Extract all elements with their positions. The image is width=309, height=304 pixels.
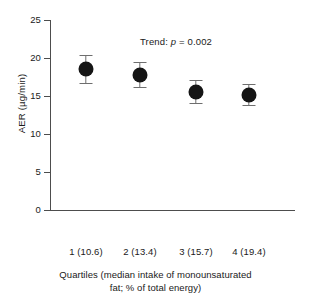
y-tick-label-0: 0 <box>1 205 41 215</box>
trend-annotation: Trend: p = 0.002 <box>140 36 212 47</box>
y-tick-label-25: 25 <box>1 15 41 25</box>
x-axis-title-line-1: Quartiles (median intake of monounsatura… <box>18 269 293 282</box>
errorbar-cap-top-2 <box>134 62 147 63</box>
x-axis-title-line-2: fat; % of total energy) <box>18 282 293 295</box>
errorbar-cap-bottom-3 <box>190 103 203 104</box>
y-tick-5 <box>44 172 50 173</box>
x-axis-line <box>50 210 295 211</box>
errorbar-cap-bottom-1 <box>80 83 93 84</box>
y-tick-20 <box>44 58 50 59</box>
trend-value: = 0.002 <box>176 36 212 47</box>
data-point-2 <box>133 68 148 83</box>
y-tick-15 <box>44 96 50 97</box>
y-tick-10 <box>44 134 50 135</box>
data-point-3 <box>189 85 204 100</box>
errorbar-cap-bottom-4 <box>243 105 256 106</box>
errorbar-cap-top-4 <box>243 84 256 85</box>
errorbar-cap-top-1 <box>80 55 93 56</box>
chart-figure: 25 20 15 10 5 0 AER (µg/min) Trend: p = … <box>0 0 309 304</box>
y-tick-0 <box>44 210 50 211</box>
errorbar-cap-bottom-2 <box>134 87 147 88</box>
trend-prefix: Trend: <box>140 36 171 47</box>
errorbar-cap-top-3 <box>190 80 203 81</box>
y-tick-25 <box>44 20 50 21</box>
y-axis-title: AER (µg/min) <box>16 39 27 169</box>
x-axis-title: Quartiles (median intake of monounsatura… <box>18 269 293 294</box>
x-tick-label-4: 4 (19.4) <box>214 246 284 257</box>
y-axis-line <box>50 20 51 211</box>
data-point-4 <box>242 88 257 103</box>
data-point-1 <box>79 62 94 77</box>
